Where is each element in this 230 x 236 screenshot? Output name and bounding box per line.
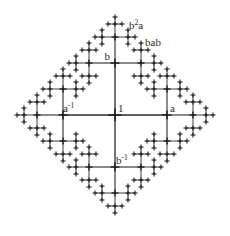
graph-node xyxy=(172,152,177,157)
graph-node xyxy=(54,152,59,157)
graph-node xyxy=(74,87,79,92)
graph-node xyxy=(126,42,131,47)
graph-node xyxy=(152,158,157,163)
graph-node xyxy=(41,139,46,144)
graph-node xyxy=(48,139,53,144)
graph-node xyxy=(100,42,105,47)
graph-node xyxy=(74,139,79,144)
graph-node xyxy=(132,48,137,53)
graph-node xyxy=(87,48,92,53)
graph-node xyxy=(191,126,196,131)
graph-node xyxy=(68,152,73,157)
graph-node xyxy=(28,100,33,105)
graph-node xyxy=(100,198,105,203)
graph-node xyxy=(74,80,79,85)
graph-node xyxy=(74,132,79,137)
graph-node xyxy=(48,94,53,99)
graph-node xyxy=(126,191,131,196)
graph-label-b-inverse: b-1 xyxy=(116,153,128,167)
graph-node xyxy=(152,172,157,177)
graph-node xyxy=(178,132,183,137)
graph-node xyxy=(138,60,145,67)
graph-node xyxy=(48,80,53,85)
graph-node xyxy=(74,146,79,151)
graph-node xyxy=(152,61,157,66)
graph-label-b: b xyxy=(105,50,111,62)
graph-node xyxy=(178,87,183,92)
graph-node xyxy=(35,133,40,138)
graph-node xyxy=(113,22,118,27)
graph-node xyxy=(87,145,92,150)
graph-node xyxy=(159,61,164,66)
graph-node xyxy=(67,165,72,170)
graph-node xyxy=(165,159,170,164)
graph-label-a: a xyxy=(170,102,175,114)
graph-node xyxy=(211,113,216,118)
graph-node xyxy=(126,198,131,203)
graph-label-bab: bab xyxy=(145,36,161,48)
graph-node xyxy=(112,190,119,197)
graph-node xyxy=(138,164,145,171)
graph-node xyxy=(120,204,125,209)
graph-node xyxy=(35,126,40,131)
graph-node xyxy=(22,120,27,125)
graph-node xyxy=(146,48,151,53)
graph-node xyxy=(152,94,157,99)
graph-node xyxy=(152,87,157,92)
graph-node xyxy=(94,48,99,53)
graph-node xyxy=(204,113,209,118)
graph-node xyxy=(113,211,118,216)
graph-node xyxy=(139,178,144,183)
graph-node xyxy=(178,94,183,99)
graph-node xyxy=(126,35,131,40)
cayley-graph-figure: 1aa-1bb-1b2abab xyxy=(0,0,230,236)
graph-node xyxy=(198,100,203,105)
graph-node xyxy=(48,87,53,92)
graph-node xyxy=(74,172,79,177)
graph-node xyxy=(132,178,137,183)
graph-node xyxy=(133,191,138,196)
graph-node xyxy=(87,152,92,157)
graph-node xyxy=(80,74,85,79)
graph-node xyxy=(61,152,66,157)
graph-node xyxy=(93,191,98,196)
graph-node xyxy=(158,74,163,79)
graph-node xyxy=(80,152,85,157)
graph-node xyxy=(191,133,196,138)
graph-node xyxy=(22,113,27,118)
graph-node xyxy=(159,165,164,170)
graph-node xyxy=(86,60,93,67)
graph-node xyxy=(158,152,163,157)
graph-node xyxy=(60,86,67,93)
graph-node xyxy=(152,80,157,85)
graph-node xyxy=(86,164,93,171)
graph-label-a-inverse: a-1 xyxy=(63,101,74,115)
graph-node xyxy=(74,61,79,66)
graph-node xyxy=(35,93,40,98)
graph-node xyxy=(35,100,40,105)
graph-node xyxy=(81,87,86,92)
graph-node xyxy=(106,22,111,27)
graph-node xyxy=(22,106,27,111)
graph-node xyxy=(146,152,151,157)
graph-node xyxy=(54,74,59,79)
graph-node xyxy=(139,48,144,53)
graph-node xyxy=(191,100,196,105)
graph-label-identity: 1 xyxy=(118,102,124,114)
graph-node xyxy=(139,74,144,79)
graph-node xyxy=(100,184,105,189)
graph-node xyxy=(172,74,177,79)
graph-node xyxy=(28,126,33,131)
graph-node xyxy=(139,81,144,86)
graph-node xyxy=(42,126,47,131)
graph-node xyxy=(145,139,150,144)
graph-node xyxy=(185,87,190,92)
graph-node xyxy=(80,178,85,183)
graph-node xyxy=(74,165,79,170)
graph-node xyxy=(178,139,183,144)
graph-node xyxy=(152,165,157,170)
graph-node xyxy=(61,74,66,79)
graph-node xyxy=(87,185,92,190)
graph-node xyxy=(184,100,189,105)
graph-labels: 1aa-1bb-1b2abab xyxy=(63,18,175,167)
